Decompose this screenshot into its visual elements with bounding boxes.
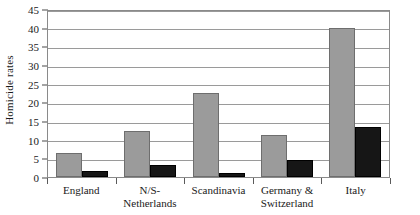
x-axis-category-label-line: Netherlands [116,197,185,210]
bar-group [321,11,389,177]
y-axis-tick-label: 5 [34,154,40,165]
x-axis-category-label-line: Scandinavia [192,184,246,196]
x-axis-category-label: N/S-Netherlands [116,184,185,215]
bar-gray [193,93,219,177]
y-axis-tick-label: 40 [28,23,39,34]
y-axis-tick-labels: 051015202530354045 [18,10,42,178]
x-axis-category-label: Scandinavia [184,184,253,215]
y-axis-tick-label: 10 [28,135,39,146]
bar-black [219,173,245,177]
bar-black [150,165,176,177]
y-axis-tick-label: 20 [28,98,39,109]
bar-group [116,11,184,177]
x-axis-tick-mark [390,178,391,184]
bar-black [82,171,108,177]
x-axis-category-label-line: Germany & [261,184,313,196]
bar-gray [329,28,355,177]
y-axis-tick-label: 0 [34,173,40,184]
y-axis-tick-label: 30 [28,61,39,72]
homicide-rates-bar-chart: Homicide rates 051015202530354045 Englan… [0,0,420,215]
bar-gray [124,131,150,177]
x-axis-category-label-line: N/S- [140,184,161,196]
y-axis-tick-label: 15 [28,117,39,128]
x-axis-category-label-line: Switzerland [253,197,322,210]
bar-group [184,11,252,177]
y-axis-tick-label: 35 [28,42,39,53]
bar-groups [48,11,389,177]
y-axis-title-text: Homicide rates [3,55,15,125]
bar-gray [261,135,287,177]
y-axis-tick-label: 45 [28,5,39,16]
bar-black [287,160,313,177]
x-axis-category-label: England [47,184,116,215]
bar-group [48,11,116,177]
bar-gray [56,153,82,177]
x-axis-category-label: Germany &Switzerland [253,184,322,215]
bar-black [355,127,381,177]
bar-group [253,11,321,177]
plot-area [47,10,390,178]
y-axis-tick-label: 25 [28,79,39,90]
x-axis-category-label-line: England [63,184,100,196]
x-axis-category-label-line: Italy [346,184,366,196]
x-axis-category-labels: EnglandN/S-NetherlandsScandinaviaGermany… [47,184,390,215]
x-axis-category-label: Italy [321,184,390,215]
y-axis-title: Homicide rates [0,0,18,180]
